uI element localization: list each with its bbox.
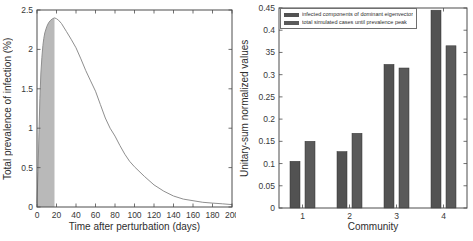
y-tick-label: 0 [270, 203, 275, 213]
prevalence-curve-plot: 02040608010012014016018020000.511.522.5 [0, 0, 236, 241]
community-bar-chart: 00.050.10.150.20.250.3350.40.451234 [236, 0, 473, 241]
x-tick-label: 0 [35, 210, 40, 220]
y-tick-label: 0 [28, 202, 33, 212]
x-tick-label: 1 [300, 211, 305, 221]
x-tick-label: 4 [441, 211, 446, 221]
left-x-axis-label: Time after perturbation (days) [37, 221, 232, 232]
bar-community-3-series-2 [399, 68, 409, 208]
y-tick-label: 0.15 [258, 136, 275, 146]
y-tick-label: 0.2 [263, 114, 275, 124]
y-tick-label: 0.5 [21, 163, 33, 173]
bar-community-2-series-1 [337, 152, 347, 208]
prevalence-curve-panel: 02040608010012014016018020000.511.522.5 … [0, 0, 236, 241]
y-tick-label: 0.25 [258, 92, 275, 102]
bar-community-1-series-1 [290, 161, 300, 208]
right-y-axis-label: Unitary-sum normalized values [239, 6, 250, 210]
y-tick-label: 0.1 [263, 159, 275, 169]
legend-swatch-eigenvector [284, 13, 299, 17]
y-tick-label: 0.45 [258, 3, 275, 13]
bar-community-1-series-2 [305, 141, 315, 208]
x-tick-label: 160 [186, 210, 200, 220]
x-tick-label: 140 [166, 210, 180, 220]
y-tick-label: 1.5 [21, 84, 33, 94]
bar-community-4-series-1 [431, 10, 441, 208]
y-tick-label: 2.5 [21, 5, 33, 15]
prevalence-curve [37, 18, 232, 205]
left-y-axis-label: Total prevalence of infection (%) [2, 8, 13, 209]
x-tick-label: 40 [71, 210, 81, 220]
y-tick-label: 2 [28, 44, 33, 54]
x-tick-label: 120 [147, 210, 161, 220]
legend-entry-simulated-cases: total simulated cases until prevalence p… [284, 19, 413, 26]
y-tick-label: 0.05 [258, 181, 275, 191]
right-x-axis-label: Community [279, 221, 467, 232]
bar-community-2-series-2 [352, 133, 362, 208]
x-tick-label: 180 [205, 210, 219, 220]
y-tick-label: 0.3 [263, 70, 275, 80]
bar-community-4-series-2 [446, 46, 456, 208]
community-bar-panel: 00.050.10.150.20.250.3350.40.451234 Unit… [236, 0, 473, 241]
x-tick-label: 20 [52, 210, 62, 220]
plot-box [37, 10, 232, 207]
bar-community-3-series-1 [384, 64, 394, 208]
legend-label-eigenvector: infected components of dominant eigenvec… [302, 11, 413, 18]
x-tick-label: 80 [110, 210, 120, 220]
legend: infected components of dominant eigenvec… [280, 8, 417, 29]
legend-entry-eigenvector: infected components of dominant eigenvec… [284, 11, 413, 18]
x-tick-label: 3 [394, 211, 399, 221]
y-tick-label: 0.4 [263, 25, 275, 35]
y-tick-label: 35 [266, 47, 276, 57]
x-tick-label: 100 [127, 210, 141, 220]
legend-label-simulated-cases: total simulated cases until prevalence p… [302, 19, 407, 26]
x-tick-label: 60 [91, 210, 101, 220]
two-panel-figure: 02040608010012014016018020000.511.522.5 … [0, 0, 473, 241]
x-tick-label: 200 [225, 210, 236, 220]
x-tick-label: 2 [347, 211, 352, 221]
y-tick-label: 1 [28, 123, 33, 133]
legend-swatch-simulated-cases [284, 21, 299, 25]
